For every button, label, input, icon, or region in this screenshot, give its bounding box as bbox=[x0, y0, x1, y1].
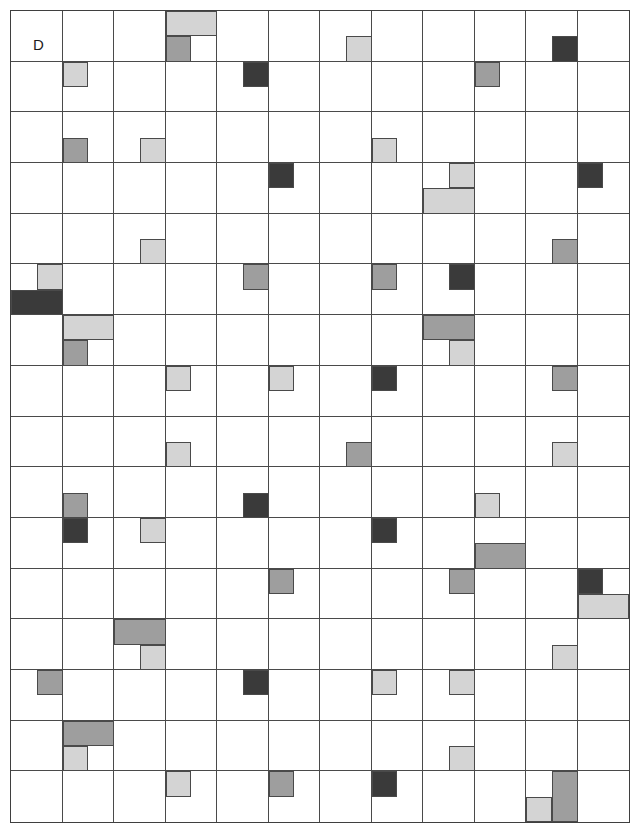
shaded-block-light bbox=[449, 163, 475, 188]
grid-cell bbox=[423, 417, 475, 468]
shaded-block-light bbox=[140, 138, 166, 163]
grid-cell bbox=[166, 264, 218, 315]
shaded-block-dark bbox=[269, 163, 295, 188]
shaded-block-light bbox=[346, 36, 372, 61]
grid-cell bbox=[114, 62, 166, 113]
grid-cell bbox=[269, 264, 321, 315]
grid-cell bbox=[578, 619, 630, 670]
shaded-block-dark bbox=[372, 518, 398, 543]
shaded-block-medium bbox=[475, 543, 527, 568]
grid-cell bbox=[114, 163, 166, 214]
grid-cell bbox=[217, 721, 269, 772]
grid-cell bbox=[320, 315, 372, 366]
grid-cell bbox=[578, 112, 630, 163]
grid-cell bbox=[114, 467, 166, 518]
grid-cell bbox=[526, 670, 578, 721]
shaded-block-light bbox=[37, 264, 63, 289]
shaded-block-medium bbox=[372, 264, 398, 289]
grid-cell bbox=[11, 518, 63, 569]
shaded-block-dark bbox=[372, 771, 398, 796]
grid-cell bbox=[320, 264, 372, 315]
grid-cell bbox=[475, 214, 527, 265]
grid-cell bbox=[475, 619, 527, 670]
shaded-block-medium bbox=[552, 366, 578, 391]
grid-cell bbox=[475, 112, 527, 163]
grid-cell bbox=[217, 417, 269, 468]
shaded-block-medium bbox=[243, 264, 269, 289]
shaded-block-light bbox=[140, 645, 166, 670]
grid-cell bbox=[11, 112, 63, 163]
shaded-block-light bbox=[372, 138, 398, 163]
grid-cell bbox=[217, 11, 269, 62]
grid-cell bbox=[166, 315, 218, 366]
grid-cell bbox=[269, 214, 321, 265]
grid-cell bbox=[526, 467, 578, 518]
grid-cell bbox=[526, 163, 578, 214]
grid-cell bbox=[423, 11, 475, 62]
grid-cell bbox=[217, 163, 269, 214]
shaded-block-medium bbox=[37, 670, 63, 695]
grid-cell bbox=[269, 62, 321, 113]
grid-cell bbox=[475, 417, 527, 468]
grid-cell bbox=[63, 214, 115, 265]
grid-cell bbox=[217, 112, 269, 163]
grid-cell bbox=[63, 264, 115, 315]
grid-cell bbox=[320, 771, 372, 822]
grid-cell bbox=[320, 721, 372, 772]
grid-cell bbox=[320, 619, 372, 670]
grid-cell bbox=[372, 417, 424, 468]
grid-cell bbox=[114, 417, 166, 468]
grid-cell bbox=[11, 417, 63, 468]
grid-cell bbox=[578, 670, 630, 721]
shaded-block-light bbox=[449, 670, 475, 695]
grid-cell bbox=[526, 569, 578, 620]
grid-cell bbox=[423, 467, 475, 518]
grid-cell bbox=[372, 11, 424, 62]
grid-cell bbox=[578, 721, 630, 772]
grid-cell bbox=[63, 11, 115, 62]
grid-cell bbox=[217, 771, 269, 822]
shaded-block-dark bbox=[243, 493, 269, 518]
grid-cell bbox=[475, 163, 527, 214]
grid-cell bbox=[372, 315, 424, 366]
grid-cell bbox=[578, 11, 630, 62]
shaded-block-medium bbox=[63, 721, 115, 746]
grid-cell bbox=[320, 569, 372, 620]
grid-cell bbox=[578, 214, 630, 265]
grid-cell bbox=[578, 62, 630, 113]
grid-cell bbox=[526, 62, 578, 113]
shaded-block-medium bbox=[423, 315, 475, 340]
grid-cell bbox=[217, 366, 269, 417]
grid-cell bbox=[114, 366, 166, 417]
grid-cell bbox=[114, 315, 166, 366]
shaded-block-light bbox=[475, 493, 501, 518]
grid-cell bbox=[63, 163, 115, 214]
grid-cell bbox=[63, 569, 115, 620]
shaded-block-dark bbox=[578, 569, 604, 594]
shaded-block-light bbox=[63, 62, 89, 87]
shaded-block-light bbox=[140, 518, 166, 543]
grid-cell bbox=[320, 366, 372, 417]
shaded-block-medium bbox=[63, 493, 89, 518]
shaded-block-medium bbox=[346, 442, 372, 467]
grid-cell bbox=[526, 518, 578, 569]
shaded-block-light bbox=[449, 340, 475, 365]
grid-cell bbox=[63, 417, 115, 468]
grid-cell bbox=[217, 315, 269, 366]
grid-cell bbox=[475, 569, 527, 620]
grid-cell bbox=[11, 619, 63, 670]
shaded-block-dark bbox=[243, 62, 269, 87]
grid-cell bbox=[114, 264, 166, 315]
grid-cell bbox=[217, 518, 269, 569]
grid-cell bbox=[578, 467, 630, 518]
grid-cell bbox=[423, 771, 475, 822]
shaded-block-medium bbox=[63, 138, 89, 163]
shaded-block-light bbox=[166, 442, 192, 467]
grid-cell bbox=[475, 670, 527, 721]
shaded-block-medium bbox=[552, 239, 578, 264]
shaded-block-light bbox=[449, 746, 475, 771]
grid-cell bbox=[11, 569, 63, 620]
grid-cell bbox=[114, 670, 166, 721]
shaded-block-light bbox=[578, 594, 630, 619]
grid-cell bbox=[269, 518, 321, 569]
